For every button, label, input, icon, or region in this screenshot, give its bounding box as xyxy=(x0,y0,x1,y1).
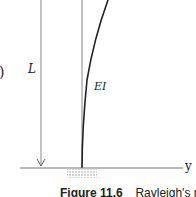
stiffness-label: EI xyxy=(94,81,106,92)
figure-caption: Figure 11.6 Rayleigh's method of xyxy=(60,186,196,197)
figure-number: Figure 11.6 xyxy=(60,186,123,197)
y-axis-label: y xyxy=(185,160,192,172)
cantilever-diagram xyxy=(0,0,196,197)
partial-glyph: ) xyxy=(0,64,4,80)
fixed-support-hatch xyxy=(67,169,97,178)
length-label: L xyxy=(28,63,36,75)
caption-text: Rayleigh's method of xyxy=(135,186,196,197)
